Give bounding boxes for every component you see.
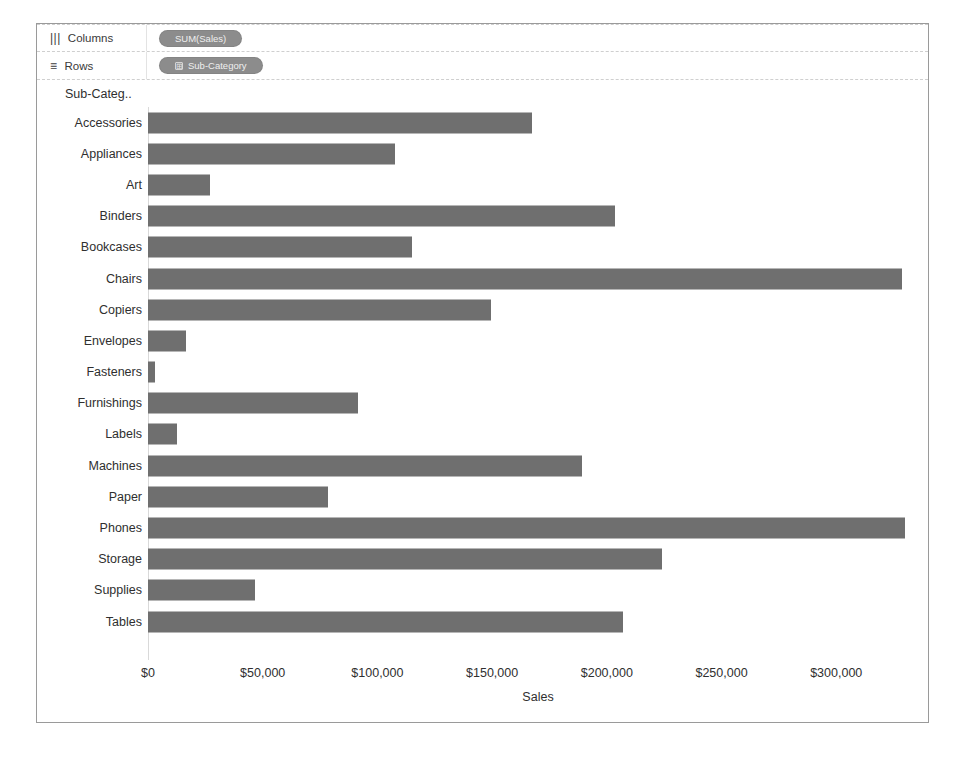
x-tick-label: $100,000 bbox=[351, 666, 403, 680]
columns-shelf-label: ||| Columns bbox=[37, 25, 147, 51]
bar-track bbox=[148, 201, 928, 232]
x-tick-label: $50,000 bbox=[240, 666, 285, 680]
bar-machines[interactable] bbox=[148, 455, 582, 476]
bar-bookcases[interactable] bbox=[148, 237, 412, 258]
bar-copiers[interactable] bbox=[148, 299, 491, 320]
row-label-fasteners[interactable]: Fasteners bbox=[37, 365, 148, 379]
chart-row: Fasteners bbox=[37, 357, 928, 388]
chart-row: Furnishings bbox=[37, 388, 928, 419]
row-field-title: Sub-Categ.. bbox=[37, 81, 147, 107]
bar-track bbox=[148, 388, 928, 419]
rows-shelf-label: ≡ Rows bbox=[37, 52, 147, 79]
bar-storage[interactable] bbox=[148, 549, 662, 570]
shelf-area: ||| Columns SUM(Sales) ≡ Rows ⊞ bbox=[37, 24, 928, 80]
row-label-paper[interactable]: Paper bbox=[37, 490, 148, 504]
row-label-envelopes[interactable]: Envelopes bbox=[37, 334, 148, 348]
x-tick-label: $150,000 bbox=[466, 666, 518, 680]
pill-sum-sales-label: SUM(Sales) bbox=[175, 33, 226, 44]
tableau-worksheet: ||| Columns SUM(Sales) ≡ Rows ⊞ bbox=[36, 23, 929, 723]
columns-icon: ||| bbox=[50, 32, 61, 44]
chart-row: Art bbox=[37, 169, 928, 200]
bar-track bbox=[148, 294, 928, 325]
chart-row: Phones bbox=[37, 512, 928, 543]
bar-furnishings[interactable] bbox=[148, 393, 358, 414]
columns-shelf-text: Columns bbox=[68, 32, 113, 44]
bar-tables[interactable] bbox=[148, 611, 623, 632]
chart-row: Machines bbox=[37, 450, 928, 481]
rows-pill-zone[interactable]: ⊞ Sub-Category bbox=[147, 57, 928, 74]
pill-sub-category-label: Sub-Category bbox=[188, 60, 247, 71]
x-tick-label: $0 bbox=[141, 666, 155, 680]
screenshot-root: ||| Columns SUM(Sales) ≡ Rows ⊞ bbox=[0, 0, 964, 763]
bar-phones[interactable] bbox=[148, 518, 905, 539]
chart-area: Sub-Categ.. AccessoriesAppliancesArtBind… bbox=[37, 81, 928, 722]
bar-track bbox=[148, 606, 928, 637]
row-label-binders[interactable]: Binders bbox=[37, 209, 148, 223]
bar-envelopes[interactable] bbox=[148, 330, 186, 351]
chart-row: Appliances bbox=[37, 138, 928, 169]
bar-supplies[interactable] bbox=[148, 580, 255, 601]
row-label-accessories[interactable]: Accessories bbox=[37, 116, 148, 130]
bar-track bbox=[148, 169, 928, 200]
bar-track bbox=[148, 325, 928, 356]
bar-track bbox=[148, 357, 928, 388]
row-label-chairs[interactable]: Chairs bbox=[37, 272, 148, 286]
rows-shelf[interactable]: ≡ Rows ⊞ Sub-Category bbox=[37, 52, 928, 80]
row-label-appliances[interactable]: Appliances bbox=[37, 147, 148, 161]
bar-track bbox=[148, 575, 928, 606]
pill-sub-category[interactable]: ⊞ Sub-Category bbox=[159, 57, 263, 74]
x-axis-title: Sales bbox=[148, 690, 928, 704]
chart-row: Bookcases bbox=[37, 232, 928, 263]
bar-fasteners[interactable] bbox=[148, 362, 155, 383]
x-tick-label: $200,000 bbox=[581, 666, 633, 680]
row-label-copiers[interactable]: Copiers bbox=[37, 303, 148, 317]
pill-sum-sales[interactable]: SUM(Sales) bbox=[159, 30, 242, 47]
bar-track bbox=[148, 481, 928, 512]
x-tick-label: $250,000 bbox=[695, 666, 747, 680]
bar-art[interactable] bbox=[148, 174, 210, 195]
bar-paper[interactable] bbox=[148, 486, 328, 507]
bar-track bbox=[148, 263, 928, 294]
bar-accessories[interactable] bbox=[148, 112, 532, 133]
x-tick-label: $300,000 bbox=[810, 666, 862, 680]
row-label-furnishings[interactable]: Furnishings bbox=[37, 396, 148, 410]
row-label-storage[interactable]: Storage bbox=[37, 552, 148, 566]
rows-shelf-text: Rows bbox=[65, 60, 94, 72]
columns-pill-zone[interactable]: SUM(Sales) bbox=[147, 30, 928, 47]
bar-appliances[interactable] bbox=[148, 143, 395, 164]
row-label-labels[interactable]: Labels bbox=[37, 427, 148, 441]
rows-icon: ≡ bbox=[50, 60, 58, 72]
row-label-bookcases[interactable]: Bookcases bbox=[37, 240, 148, 254]
bar-binders[interactable] bbox=[148, 206, 615, 227]
chart-row: Envelopes bbox=[37, 325, 928, 356]
chart-row: Tables bbox=[37, 606, 928, 637]
chart-row: Labels bbox=[37, 419, 928, 450]
chart-row: Binders bbox=[37, 201, 928, 232]
row-label-supplies[interactable]: Supplies bbox=[37, 583, 148, 597]
chart-row: Copiers bbox=[37, 294, 928, 325]
row-label-tables[interactable]: Tables bbox=[37, 615, 148, 629]
row-label-art[interactable]: Art bbox=[37, 178, 148, 192]
chart-row: Accessories bbox=[37, 107, 928, 138]
bar-track bbox=[148, 232, 928, 263]
chart-row: Supplies bbox=[37, 575, 928, 606]
bar-chairs[interactable] bbox=[148, 268, 902, 289]
bar-track bbox=[148, 107, 928, 138]
columns-shelf[interactable]: ||| Columns SUM(Sales) bbox=[37, 24, 928, 52]
chart-row: Storage bbox=[37, 544, 928, 575]
chart-row: Paper bbox=[37, 481, 928, 512]
chart-row: Chairs bbox=[37, 263, 928, 294]
bar-track bbox=[148, 419, 928, 450]
bar-track bbox=[148, 544, 928, 575]
bar-track bbox=[148, 138, 928, 169]
row-label-phones[interactable]: Phones bbox=[37, 521, 148, 535]
bar-rows: AccessoriesAppliancesArtBindersBookcases… bbox=[37, 107, 928, 660]
row-label-machines[interactable]: Machines bbox=[37, 459, 148, 473]
bar-track bbox=[148, 512, 928, 543]
x-axis: Sales $0$50,000$100,000$150,000$200,000$… bbox=[148, 660, 928, 722]
bar-labels[interactable] bbox=[148, 424, 177, 445]
bar-track bbox=[148, 450, 928, 481]
hierarchy-expand-icon[interactable]: ⊞ bbox=[175, 62, 183, 70]
